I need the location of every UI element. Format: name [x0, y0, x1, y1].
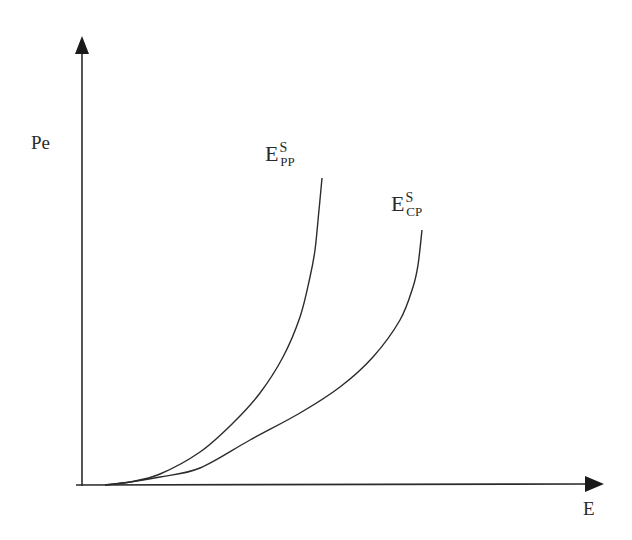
x-axis-label: E — [583, 499, 595, 518]
x-axis-arrow-icon — [585, 476, 604, 492]
curve-e-s-cp — [105, 230, 422, 485]
x-axis — [76, 484, 588, 485]
curve-label-pp-sub: PP — [280, 154, 294, 169]
curve-label-pp-sup: S — [279, 140, 287, 155]
chart-canvas — [0, 0, 632, 540]
curve-label-cp-sub: CP — [406, 204, 422, 219]
y-axis-arrow-icon — [75, 36, 89, 54]
curve-label-cp: ESCP — [391, 193, 428, 215]
curve-label-pp-base: E — [265, 141, 278, 166]
y-axis-label: Pe — [31, 133, 50, 152]
curve-label-pp: ESPP — [265, 143, 301, 165]
curve-e-s-pp — [105, 178, 322, 485]
curve-label-cp-sup: S — [405, 190, 413, 205]
curve-label-cp-base: E — [391, 191, 404, 216]
